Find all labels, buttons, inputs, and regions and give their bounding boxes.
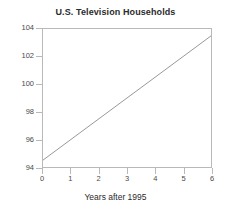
x-tick-label: 5: [174, 175, 194, 183]
chart-title: U.S. Television Households: [0, 7, 231, 17]
y-tick-mark: [36, 28, 42, 29]
x-tick-label: 0: [32, 175, 52, 183]
x-tick-label: 2: [89, 175, 109, 183]
y-tick-label: 100: [21, 80, 34, 88]
x-tick-label: 4: [145, 175, 165, 183]
plot-area: [42, 28, 212, 168]
x-axis-title: Years after 1995: [0, 192, 231, 202]
y-tick-mark: [36, 56, 42, 57]
x-tick-label: 1: [60, 175, 80, 183]
y-tick-mark: [36, 84, 42, 85]
chart-figure: U.S. Television Households 9496981001021…: [0, 0, 231, 214]
y-tick-mark: [36, 112, 42, 113]
y-tick-label: 94: [26, 164, 34, 172]
y-tick-label: 102: [21, 52, 34, 60]
y-tick-label: 98: [26, 108, 34, 116]
data-series-line: [43, 36, 211, 160]
plot-svg: [43, 29, 211, 167]
x-tick-label: 6: [202, 175, 222, 183]
x-tick-label: 3: [117, 175, 137, 183]
y-tick-label: 104: [21, 24, 34, 32]
y-tick-label: 96: [26, 136, 34, 144]
y-tick-mark: [36, 140, 42, 141]
